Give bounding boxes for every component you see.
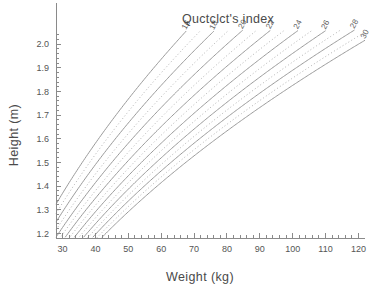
y-tick-label: 1.8 bbox=[36, 87, 49, 97]
y-tick-label: 1.5 bbox=[36, 158, 49, 168]
x-tick-label: 50 bbox=[123, 244, 133, 254]
y-tick-label: 2.0 bbox=[36, 39, 49, 49]
chart-title: Quctclct's index bbox=[182, 12, 274, 26]
y-tick-label: 1.3 bbox=[36, 205, 49, 215]
x-tick-label: 40 bbox=[90, 244, 100, 254]
x-tick-label: 70 bbox=[189, 244, 199, 254]
y-tick-label: 1.4 bbox=[36, 181, 49, 191]
x-tick-label: 90 bbox=[255, 244, 265, 254]
x-axis-title: Weight (kg) bbox=[166, 270, 234, 284]
x-tick-label: 100 bbox=[285, 244, 300, 254]
x-tick-label: 30 bbox=[58, 244, 68, 254]
y-tick-label: 1.2 bbox=[36, 229, 49, 239]
x-tick-label: 110 bbox=[318, 244, 332, 254]
chart-canvas: 1618202224262830 30405060708090100110120… bbox=[0, 0, 378, 288]
quetelet-index-chart: 1618202224262830 30405060708090100110120… bbox=[0, 0, 378, 288]
y-tick-label: 1.7 bbox=[36, 110, 49, 120]
x-tick-label: 120 bbox=[351, 244, 366, 254]
x-tick-label: 60 bbox=[156, 244, 166, 254]
y-axis-title: Height (m) bbox=[7, 104, 21, 166]
y-tick-label: 1.9 bbox=[36, 63, 49, 73]
y-tick-label: 1.6 bbox=[36, 134, 49, 144]
x-tick-label: 80 bbox=[222, 244, 232, 254]
